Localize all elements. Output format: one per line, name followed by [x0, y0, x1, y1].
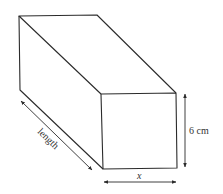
top-face-edges — [19, 15, 176, 94]
cuboid-shape — [19, 15, 177, 169]
cuboid-diagram: 6 cm x length — [0, 0, 223, 194]
front-face — [101, 93, 177, 169]
length-label: length — [36, 126, 62, 151]
height-label: 6 cm — [189, 125, 209, 136]
left-face-edges — [19, 16, 103, 169]
height-dimension: 6 cm — [185, 94, 209, 167]
length-dimension: length — [21, 101, 92, 170]
width-dimension: x — [104, 170, 176, 182]
length-arrow — [21, 101, 92, 170]
width-label: x — [136, 170, 142, 181]
